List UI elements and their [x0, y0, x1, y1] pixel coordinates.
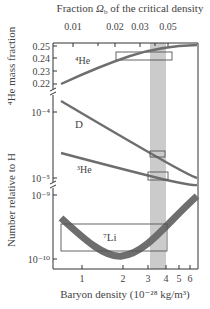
- he4-label: ⁴He: [75, 55, 91, 66]
- bbn-chart: Fraction Ωb of the critical density 0.01…: [0, 0, 210, 309]
- y-tick-label: 10⁻⁹: [31, 190, 50, 201]
- top-tick-label: 0.05: [159, 21, 177, 32]
- y-tick-label: 10⁻⁵: [31, 173, 50, 184]
- top-axis-title: Fraction Ωb of the critical density: [57, 2, 204, 16]
- y-tick-label: 10⁻⁴: [31, 107, 50, 118]
- y-tick-label: 0.25: [33, 41, 51, 52]
- x-tick-label: 2: [121, 273, 126, 284]
- deuterium-label: D: [75, 118, 83, 130]
- y-axis-title-number: Number relative to H: [5, 153, 17, 247]
- y-tick-label: 0.22: [33, 78, 51, 89]
- y-tick-label: 10⁻¹⁰: [28, 254, 50, 265]
- y-tick-label: 0.23: [33, 66, 51, 77]
- x-tick-label: 6: [188, 273, 193, 284]
- y-tick-label: 0.24: [33, 53, 51, 64]
- x-tick-label: 4: [164, 273, 169, 284]
- top-tick-label: 0.03: [131, 21, 149, 32]
- x-tick-label: 3: [146, 273, 151, 284]
- x-tick-label: 1: [80, 273, 85, 284]
- y-axis-title-he4: ⁴He mass fraction: [5, 26, 17, 105]
- top-tick-label: 0.01: [64, 21, 82, 32]
- li7-curve: [61, 196, 197, 256]
- left-ticks: [53, 46, 57, 259]
- he3-label: ³He: [77, 164, 92, 175]
- li7-label: ⁷Li: [103, 231, 117, 243]
- bottom-ticks: [82, 265, 190, 269]
- x-tick-label: 5: [177, 273, 182, 284]
- top-tick-label: 0.02: [106, 21, 124, 32]
- x-axis-title: Baryon density (10⁻²⁸ kg/m³): [60, 288, 190, 301]
